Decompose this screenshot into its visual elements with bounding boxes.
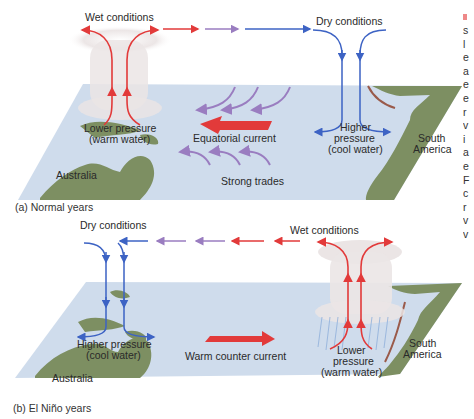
label-america: America [413,144,452,155]
label-strong-trades: Strong trades [221,176,284,187]
el-nino-diagram [0,212,474,419]
sidebar-char: a [463,146,474,160]
sidebar-char: e [463,160,474,174]
label-cool-water: (cool water) [328,144,383,155]
label-dry-conditions: Dry conditions [316,16,383,27]
sidebar-char: v [463,228,474,242]
sidebar-char: l [463,38,474,52]
sidebar-char: i [463,133,474,147]
caption-el-nino-years: (b) El Niño years [13,402,91,414]
sidebar-char: e [463,78,474,92]
sidebar-char: r [463,106,474,120]
label-wet-conditions: Wet conditions [85,12,154,23]
clipped-sidebar-text: s l e a e e r v i a e F c r v v [463,14,474,242]
label-warm-water: (warm water) [321,367,382,378]
sidebar-char: a [463,65,474,79]
label-australia: Australia [52,373,93,384]
sidebar-char: e [463,92,474,106]
sidebar-char: s [463,24,474,38]
label-warm-counter-current: Warm counter current [185,351,286,362]
label-america: America [403,349,442,360]
sidebar-marker [463,14,467,20]
sidebar-char: v [463,214,474,228]
sidebar-char: v [463,119,474,133]
label-dry-conditions: Dry conditions [80,220,147,231]
sidebar-char: r [463,201,474,215]
label-australia: Australia [56,170,97,181]
sidebar-char: c [463,187,474,201]
panel-el-nino-years: Wet conditions Dry conditions Higher pre… [0,212,474,419]
label-wet-conditions: Wet conditions [290,225,359,236]
sidebar-char: e [463,51,474,65]
panel-normal-years: Wet conditions Dry conditions Lower pres… [0,0,474,212]
sidebar-char: F [463,174,474,188]
label-cool-water: (cool water) [86,350,141,361]
label-equatorial-current: Equatorial current [193,133,276,144]
label-warm-water: (warm water) [89,134,150,145]
